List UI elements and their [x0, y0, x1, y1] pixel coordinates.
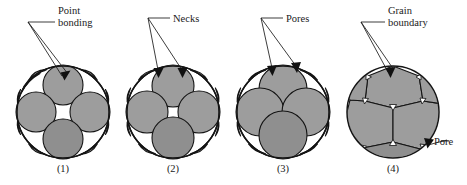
panel-4-group: (4) [332, 62, 456, 176]
panel-1-group: (1) [16, 65, 110, 175]
panel-4-grain-top [365, 66, 423, 108]
point-bonding-label-line2: bonding [58, 17, 93, 28]
panel-4-grains [332, 62, 456, 176]
pore-label: Pore [434, 136, 454, 147]
point-bonding-leader-line [28, 22, 62, 76]
panel-2-caption: (2) [167, 163, 180, 175]
panel-4-caption: (4) [387, 163, 400, 175]
grain-boundary-label-line1: Grain [388, 5, 413, 16]
panel-4-grain-left [344, 100, 393, 148]
panel-3-group: (3) [236, 65, 330, 175]
sintering-stage-diagram: (1) (2) [0, 0, 467, 185]
point-bonding-label-line1: Point [58, 5, 80, 16]
grain-boundary-leader-line-1 [361, 22, 388, 72]
panel-1-particle-bottom [43, 119, 83, 159]
panel-3-caption: (3) [277, 163, 290, 175]
pores-label-line1: Pores [286, 13, 309, 24]
panel-2-group: (2) [126, 65, 220, 175]
grain-boundary-leader-line-2 [361, 22, 394, 70]
point-bonding-leader-line-2 [28, 22, 68, 74]
necks-label-line1: Necks [173, 13, 199, 24]
grain-boundary-label-line2: boundary [388, 17, 428, 28]
panel-4-grain-upper-left [340, 62, 368, 101]
panel-1-caption: (1) [57, 163, 70, 175]
panel-2-particle-bottom [152, 117, 194, 159]
panel-3-particle-bottom [259, 111, 307, 159]
